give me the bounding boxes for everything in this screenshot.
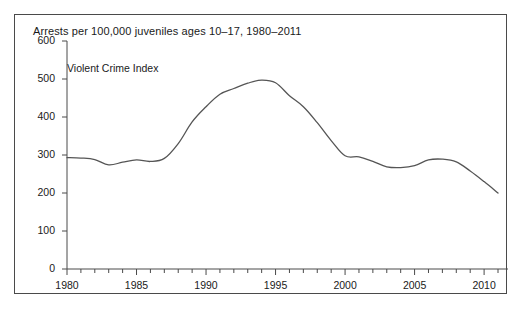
y-tick-label: 100 (25, 224, 55, 236)
x-tick-label: 1980 (47, 279, 87, 291)
y-tick-label: 600 (25, 34, 55, 46)
x-tick-label: 2005 (395, 279, 435, 291)
y-tick-label: 500 (25, 72, 55, 84)
x-tick-label: 1990 (186, 279, 226, 291)
y-tick-label: 300 (25, 148, 55, 160)
y-tick-label: 0 (25, 262, 55, 274)
line-series-violent-crime-index (67, 80, 498, 193)
plot-area (15, 15, 508, 295)
x-tick-label: 1995 (256, 279, 296, 291)
x-tick-label: 2010 (464, 279, 504, 291)
y-tick-label: 200 (25, 186, 55, 198)
axis-ticks (62, 41, 498, 275)
axes (67, 41, 508, 269)
chart-figure: Arrests per 100,000 juveniles ages 10–17… (14, 14, 507, 294)
x-tick-label: 1985 (117, 279, 157, 291)
y-tick-label: 400 (25, 110, 55, 122)
x-tick-label: 2000 (325, 279, 365, 291)
